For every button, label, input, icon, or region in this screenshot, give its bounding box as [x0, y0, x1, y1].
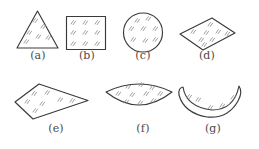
shapes-figure: (a) (b) (c) (d) (e) (f) (g) [0, 0, 259, 149]
caption-g: (g) [205, 122, 221, 135]
caption-b: (b) [79, 49, 95, 62]
shape-f-curved-fan [106, 83, 172, 105]
caption-a: (a) [30, 49, 46, 62]
caption-f: (f) [136, 122, 149, 135]
shape-d-rhombus [180, 18, 235, 50]
shape-e-quadrilateral [15, 84, 88, 119]
caption-d: (d) [199, 49, 215, 62]
shape-a-triangle [17, 11, 58, 48]
shape-b-square [67, 17, 106, 50]
caption-c: (c) [135, 49, 150, 62]
shape-c-circle [124, 13, 163, 52]
shape-g-crescent [179, 86, 241, 117]
caption-e: (e) [48, 122, 64, 135]
